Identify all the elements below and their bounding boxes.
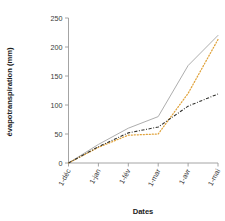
y-axis-ticks: 050100150200250 [51, 14, 69, 168]
line-chart: évapotranspiration (mm) 050100150200250 … [0, 0, 225, 221]
y-tick-label: 50 [55, 130, 63, 139]
y-tick-label: 250 [51, 14, 63, 23]
x-axis-title: Dates [133, 207, 154, 216]
data-series-series-dashdot [69, 94, 219, 163]
y-tick-label: 0 [59, 159, 63, 168]
x-axis-ticks: 1-déc1-jan1-fév1-mar1-avr1-mai [56, 163, 222, 188]
x-tick-label: 1-fév [117, 167, 133, 186]
x-tick-label: 1-jan [87, 167, 102, 185]
chart-container: évapotranspiration (mm) 050100150200250 … [0, 0, 225, 221]
y-axis-title: évapotranspiration (mm) [5, 47, 14, 137]
y-tick-label: 200 [51, 43, 63, 52]
x-tick-label: 1-mar [146, 167, 163, 188]
y-tick-label: 150 [51, 72, 63, 81]
data-series-series-solid [69, 35, 219, 163]
series-layer [69, 35, 219, 163]
x-tick-label: 1-déc [56, 167, 73, 187]
y-tick-label: 100 [51, 101, 63, 110]
x-tick-label: 1-avr [177, 167, 193, 186]
x-tick-label: 1-mai [206, 167, 223, 187]
